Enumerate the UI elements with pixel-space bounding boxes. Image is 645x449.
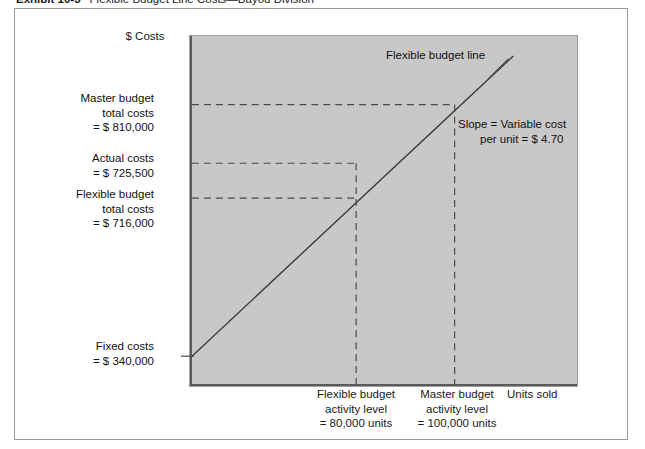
- label-fixed-costs-line1: Fixed costs: [93, 339, 154, 354]
- label-flexible-budget-total-costs: Flexible budget total costs = $ 716,000: [76, 187, 154, 231]
- label-fixed-costs: Fixed costs = $ 340,000: [93, 339, 154, 368]
- label-fixed-costs-value: = $ 340,000: [93, 354, 154, 369]
- x-tick-master-line1: Master budget: [390, 387, 524, 402]
- y-axis-title-costs: Costs: [135, 30, 164, 42]
- x-tick-master-line2: activity level: [390, 402, 524, 417]
- annotation-flexible-budget-line: Flexible budget line: [386, 48, 485, 63]
- x-tick-master-budget-activity-level: Master budget activity level = 100,000 u…: [390, 387, 524, 431]
- plot-svg: [190, 36, 577, 386]
- label-actual-costs: Actual costs = $ 725,500: [92, 151, 154, 180]
- exhibit-title: Flexible Budget Line Costs—Bayou Divisio…: [90, 0, 314, 5]
- label-master-budget-line1: Master budget: [80, 91, 154, 106]
- plot-area: Flexible budget line Slope = Variable co…: [189, 35, 578, 387]
- x-axis-title: Units sold: [507, 387, 558, 401]
- label-actual-costs-line1: Actual costs: [92, 151, 154, 166]
- annotation-slope-line2: per unit = $ 4.70: [458, 132, 566, 147]
- label-actual-costs-value: = $ 725,500: [92, 166, 154, 181]
- y-axis-title-currency: $: [125, 30, 131, 42]
- y-axis-title: $ Costs: [103, 29, 187, 43]
- label-master-budget-total-costs: Master budget total costs = $ 810,000: [80, 91, 154, 135]
- exhibit-caption: Exhibit 10-3Flexible Budget Line Costs—B…: [16, 0, 314, 7]
- flexible-budget-line: [192, 56, 513, 356]
- exhibit-number: Exhibit 10-3: [16, 0, 81, 5]
- label-flexible-budget-line2: total costs: [76, 202, 154, 217]
- flexible-budget-line-leader: [488, 59, 508, 79]
- label-master-budget-line2: total costs: [80, 106, 154, 121]
- label-master-budget-value: = $ 810,000: [80, 120, 154, 135]
- x-tick-master-value: = 100,000 units: [390, 416, 524, 431]
- annotation-slope-line1: Slope = Variable cost: [458, 117, 566, 132]
- annotation-slope: Slope = Variable cost per unit = $ 4.70: [458, 117, 566, 147]
- figure-frame: $ Costs Master budget total costs = $ 81…: [14, 8, 628, 440]
- label-flexible-budget-line1: Flexible budget: [76, 187, 154, 202]
- label-flexible-budget-value: = $ 716,000: [76, 216, 154, 231]
